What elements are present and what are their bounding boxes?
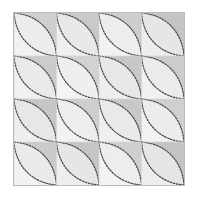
quilt-cell bbox=[142, 142, 185, 185]
quilt-pattern-canvas bbox=[0, 0, 197, 199]
quilt-block-diagram bbox=[0, 0, 197, 199]
quilt-cell bbox=[14, 56, 57, 99]
quilt-cell bbox=[99, 56, 142, 99]
quilt-cell bbox=[142, 99, 185, 142]
quilt-cell bbox=[14, 13, 57, 56]
quilt-cell bbox=[57, 142, 100, 185]
quilt-cell bbox=[99, 99, 142, 142]
quilt-cell bbox=[57, 13, 100, 56]
quilt-cell bbox=[142, 56, 185, 99]
quilt-cell bbox=[99, 142, 142, 185]
quilt-cell bbox=[99, 13, 142, 56]
quilt-cell bbox=[14, 142, 57, 185]
quilt-cell bbox=[57, 56, 100, 99]
quilt-cell-group bbox=[14, 13, 184, 185]
quilt-cell bbox=[57, 99, 100, 142]
quilt-cell bbox=[14, 99, 57, 142]
quilt-cell bbox=[142, 13, 185, 56]
